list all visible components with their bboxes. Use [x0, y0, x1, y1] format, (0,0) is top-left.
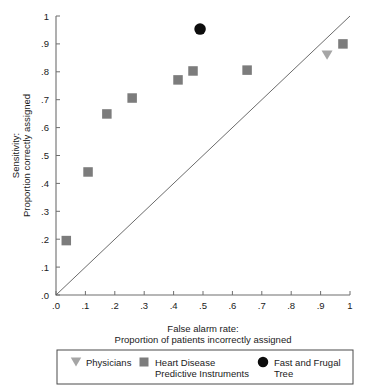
x-tick-label-9: .9 [317, 300, 325, 311]
roc-chart: .0.1.2.3.4.5.6.7.8.91.0.1.2.3.4.5.6.7.8.… [0, 0, 366, 390]
y-tick-label-3: .3 [41, 206, 49, 217]
legend-label-0: Physicians [86, 357, 132, 368]
chance-diagonal [56, 16, 350, 295]
x-tick-label-3: .3 [140, 300, 148, 311]
legend-marker-circle [258, 357, 269, 368]
data-points [62, 23, 348, 245]
legend-item-2[interactable]: Fast and FrugalTree [258, 357, 341, 380]
series-2 [194, 23, 206, 34]
x-axis-title-line1: False alarm rate: [167, 323, 238, 334]
data-point-square-0-1 [83, 167, 93, 177]
data-point-square-0-2 [102, 109, 112, 119]
x-tick-label-5: .5 [199, 300, 207, 311]
data-point-triangle-down-1-0 [322, 50, 333, 59]
legend-label-1: Heart Disease [155, 357, 215, 368]
y-tick-label-9: .9 [41, 38, 49, 49]
x-tick-label-10: 1 [347, 300, 352, 311]
x-tick-label-7: .7 [258, 300, 266, 311]
x-tick-label-1: .1 [81, 300, 89, 311]
x-tick-label-8: .8 [287, 300, 295, 311]
legend-marker-square [140, 358, 149, 367]
legend-marker-triangle-down [71, 358, 82, 367]
y-tick-label-8: .8 [41, 66, 49, 77]
y-tick-label-5: .5 [41, 150, 49, 161]
legend-item-1[interactable]: Heart DiseasePredictive Instruments [140, 357, 250, 380]
x-axis-title-line2: Proportion of patients incorrectly assig… [115, 334, 292, 345]
x-tick-label-6: .6 [228, 300, 236, 311]
data-point-square-0-6 [242, 65, 252, 75]
legend-label-2: Fast and Frugal [274, 357, 341, 368]
data-point-square-0-0 [62, 236, 72, 246]
y-tick-label-10: 1 [44, 11, 49, 22]
data-point-square-0-5 [188, 66, 198, 76]
x-tick-label-4: .4 [170, 300, 178, 311]
legend-label-1-line2: Predictive Instruments [155, 368, 249, 379]
x-tick-label-2: .2 [111, 300, 119, 311]
y-tick-label-2: .2 [41, 234, 49, 245]
chart-canvas: .0.1.2.3.4.5.6.7.8.91.0.1.2.3.4.5.6.7.8.… [0, 0, 366, 390]
y-tick-label-7: .7 [41, 94, 49, 105]
y-axis-title-line2: Proportion correctly assigned [21, 94, 32, 217]
data-point-square-0-7 [338, 39, 348, 49]
y-tick-label-6: .6 [41, 122, 49, 133]
data-point-circle-2-0 [194, 23, 206, 34]
y-axis-title-line1: Sensitivity: [10, 133, 21, 178]
data-point-square-0-4 [173, 75, 183, 85]
y-tick-label-0: .0 [41, 290, 49, 301]
chart-legend: PhysiciansHeart DiseasePredictive Instru… [57, 350, 353, 384]
y-tick-label-4: .4 [41, 178, 49, 189]
legend-item-0[interactable]: Physicians [71, 357, 132, 368]
series-1 [322, 50, 333, 59]
y-tick-label-1: .1 [41, 262, 49, 273]
series-0 [62, 39, 348, 245]
chance-diagonal-line [56, 16, 350, 295]
x-tick-label-0: .0 [52, 300, 60, 311]
legend-label-2-line2: Tree [274, 368, 293, 379]
data-point-square-0-3 [127, 93, 136, 103]
